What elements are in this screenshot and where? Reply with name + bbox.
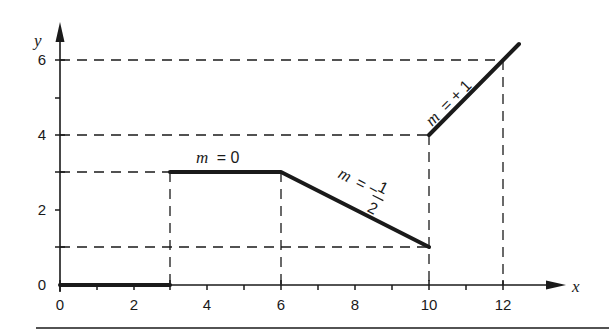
y-tick-2: 2 bbox=[38, 201, 46, 218]
annotation-m-minus-half: m = − 1 2 bbox=[328, 159, 392, 218]
x-axis-arrow-icon bbox=[546, 281, 566, 290]
svg-text:1: 1 bbox=[375, 178, 391, 197]
y-tick-0: 0 bbox=[38, 276, 46, 293]
y-tick-labels: 0 2 4 6 bbox=[38, 51, 46, 293]
annotation-m0: m = 0 bbox=[196, 148, 240, 167]
x-tick-0: 0 bbox=[56, 296, 64, 313]
y-tick-6: 6 bbox=[38, 51, 46, 68]
svg-text:m = −: m = − bbox=[335, 164, 382, 200]
svg-text:m = 0: m = 0 bbox=[196, 148, 240, 167]
x-tick-12: 12 bbox=[495, 296, 512, 313]
x-tick-8: 8 bbox=[351, 296, 359, 313]
svg-text:2: 2 bbox=[365, 199, 381, 218]
svg-text:m = + 1: m = + 1 bbox=[421, 76, 475, 130]
y-axis-arrow-icon bbox=[56, 22, 65, 42]
y-axis-label: y bbox=[32, 31, 42, 50]
function-segments bbox=[60, 44, 519, 285]
axes bbox=[60, 30, 552, 292]
x-tick-10: 10 bbox=[421, 296, 438, 313]
y-tick-4: 4 bbox=[38, 126, 46, 143]
x-axis-label: x bbox=[571, 277, 580, 296]
x-tick-6: 6 bbox=[277, 296, 285, 313]
x-tick-2: 2 bbox=[130, 296, 138, 313]
x-tick-labels: 0 2 4 6 8 10 12 bbox=[56, 296, 512, 313]
x-tick-4: 4 bbox=[203, 296, 211, 313]
annotation-m-plus-one: m = + 1 bbox=[421, 76, 475, 130]
slope-chart: 0 2 4 6 8 10 12 0 2 4 6 y x m = 0 m = − … bbox=[0, 0, 609, 335]
